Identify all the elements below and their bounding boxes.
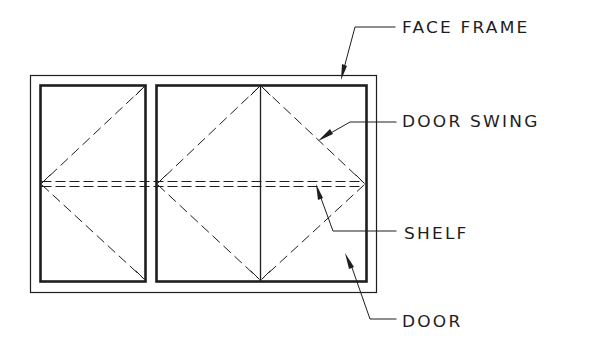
door-swing-lines bbox=[42, 87, 364, 279]
cabinet-elevation-drawing bbox=[0, 0, 594, 347]
face-frame-outline bbox=[31, 76, 377, 293]
label-door-swing: DOOR SWING bbox=[402, 113, 540, 129]
leader-face-frame bbox=[343, 27, 395, 72]
label-face-frame: FACE FRAME bbox=[402, 19, 530, 35]
leader-door bbox=[350, 262, 396, 319]
arrowhead-door bbox=[345, 253, 354, 269]
arrowhead-door-swing bbox=[318, 129, 333, 141]
left-door bbox=[41, 86, 146, 282]
arrowhead-face-frame bbox=[341, 64, 347, 80]
label-shelf: SHELF bbox=[404, 225, 469, 241]
leader-door-swing bbox=[322, 122, 396, 138]
label-door: DOOR bbox=[402, 313, 462, 329]
leader-shelf bbox=[318, 190, 396, 231]
right-door-pair bbox=[157, 86, 367, 282]
shelf-lines bbox=[42, 182, 364, 187]
